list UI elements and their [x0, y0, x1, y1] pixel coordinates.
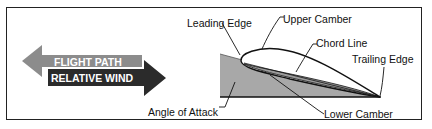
- leading-edge-label: Leading Edge: [187, 17, 252, 29]
- trailing-edge-leader: [380, 67, 384, 96]
- upper-camber-leader: [262, 17, 284, 49]
- airfoil-diagram: FLIGHT PATH RELATIVE WIND Leading Edge U…: [0, 0, 432, 129]
- angle-of-attack-label: Angle of Attack: [148, 106, 219, 118]
- relative-wind-label: RELATIVE WIND: [51, 72, 133, 84]
- chord-line-label: Chord Line: [316, 37, 368, 49]
- upper-camber-label: Upper Camber: [283, 13, 352, 25]
- flight-path-label: FLIGHT PATH: [54, 56, 122, 68]
- lower-camber-label: Lower Camber: [324, 108, 393, 120]
- trailing-edge-label: Trailing Edge: [352, 53, 414, 65]
